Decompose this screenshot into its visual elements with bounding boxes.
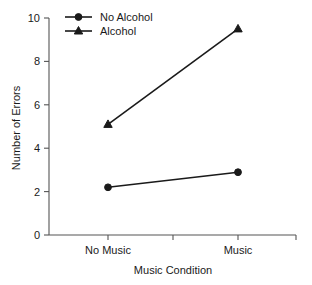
y-axis-title: Number of Errors <box>10 85 22 170</box>
y-tick-label-0: 0 <box>34 229 40 241</box>
y-tick-label-10: 10 <box>28 12 40 24</box>
series-line-alcohol <box>108 29 238 125</box>
circle-marker <box>235 169 242 176</box>
legend-label-no-alcohol: No Alcohol <box>100 11 153 23</box>
triangle-marker <box>104 120 112 128</box>
triangle-marker <box>234 24 242 32</box>
line-chart-figure: 10 8 6 4 2 0 No Music Music Music Condit… <box>0 0 312 285</box>
circle-marker <box>105 184 112 191</box>
legend: No Alcohol Alcohol <box>65 11 153 37</box>
x-axis-title: Music Condition <box>134 264 212 276</box>
circle-marker <box>75 14 82 21</box>
series-line-no-alcohol <box>108 172 238 187</box>
x-tick-label-music: Music <box>224 244 253 256</box>
y-tick-label-2: 2 <box>34 186 40 198</box>
y-tick-label-6: 6 <box>34 99 40 111</box>
y-tick-label-4: 4 <box>34 142 40 154</box>
x-tick-label-no-music: No Music <box>85 244 131 256</box>
chart-canvas: 10 8 6 4 2 0 No Music Music Music Condit… <box>0 0 312 285</box>
legend-label-alcohol: Alcohol <box>100 25 136 37</box>
legend-entry-alcohol: Alcohol <box>65 25 136 37</box>
legend-entry-no-alcohol: No Alcohol <box>65 11 153 23</box>
y-tick-label-8: 8 <box>34 55 40 67</box>
